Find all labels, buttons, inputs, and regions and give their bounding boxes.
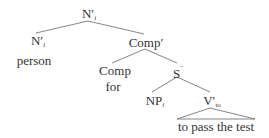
tree-branches [0,0,269,138]
node-np: NPi [146,94,165,112]
word-to-pass-the-test: to pass the test [178,120,254,133]
node-comp: Comp [99,64,131,77]
word-person: person [17,54,52,67]
branch-root-left [36,21,88,33]
word-for: for [105,80,120,93]
branch-compbar-left [112,49,145,63]
node-root-nbar: N′i [82,7,96,25]
node-comp-bar: Comp′ [129,36,164,49]
branch-root-right [88,21,144,34]
node-s-bar: S‾ [173,64,183,80]
branch-compbar-right [145,49,177,63]
node-left-nbar: N′i [31,34,45,52]
node-v-bar: V′to [203,94,221,112]
